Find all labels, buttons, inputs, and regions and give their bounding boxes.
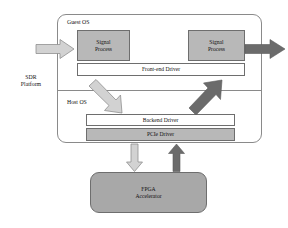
fpga-accelerator-block: FPGA Accelerator [90, 172, 207, 213]
host-os-label: Host OS [67, 99, 87, 105]
input-arrow-icon [36, 39, 76, 59]
frontend-driver-block: Front-end Driver [77, 63, 245, 76]
from-fpga-arrow-icon [168, 144, 185, 172]
pcie-driver-block: PCIe Driver [86, 128, 235, 141]
sdr-platform-diagram: SDR Platform Guest OS Host OS Signal Pro… [0, 0, 288, 228]
uplink-arrow-icon [189, 78, 233, 116]
downlink-arrow-icon [88, 79, 132, 115]
signal-process-left-block: Signal Process [77, 30, 130, 61]
output-arrow-icon [245, 39, 287, 59]
sdr-platform-label: SDR Platform [8, 74, 54, 88]
to-fpga-arrow-icon [126, 144, 143, 172]
signal-process-right-block: Signal Process [188, 30, 245, 61]
guest-os-label: Guest OS [67, 19, 89, 25]
